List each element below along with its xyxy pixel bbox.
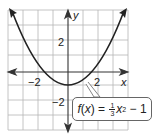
y-tick-label-2: 2 bbox=[58, 36, 64, 48]
curve-left-arrow-icon bbox=[9, 8, 17, 18]
y-axis-label: y bbox=[72, 9, 80, 21]
x-tick-label-neg2: −2 bbox=[28, 76, 41, 88]
y-tick-label-neg2: −2 bbox=[52, 96, 65, 108]
fraction-one-third: 1 3 bbox=[109, 102, 115, 117]
x-tick-label-2: 2 bbox=[94, 76, 100, 88]
curve-right-arrow-icon bbox=[119, 8, 127, 18]
function-label-callout: f(x) = 1 3 x2 − 1 bbox=[72, 97, 152, 121]
x-axis-label: x bbox=[120, 76, 127, 88]
